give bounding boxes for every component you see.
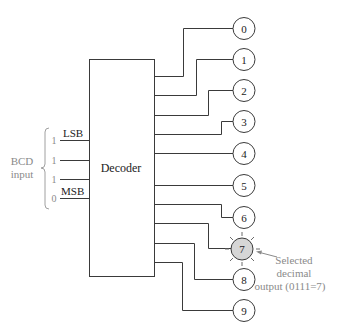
- annotation-arrow-icon: [256, 251, 277, 258]
- output-node-6: 6: [233, 207, 255, 229]
- output-node-2: 2: [233, 80, 255, 102]
- input-bit-1: 1: [52, 155, 57, 166]
- output-label: 1: [241, 54, 247, 66]
- bcd-label: BCD: [11, 155, 34, 167]
- input-bit-3: 0: [52, 193, 57, 204]
- bcd-decoder-diagram: Decoder LSB MSB 1 1 1 0 BCD input 0 1: [0, 0, 343, 334]
- output-label: 8: [241, 274, 247, 286]
- input-label: input: [11, 168, 34, 180]
- bcd-bracket: [41, 128, 49, 209]
- output-node-9: 9: [233, 300, 255, 322]
- input-bit-2: 1: [52, 174, 57, 185]
- output-wire-9: [155, 263, 234, 311]
- output-node-1: 1: [233, 49, 255, 71]
- output-wire-2: [155, 91, 234, 116]
- output-wire-6: [155, 205, 234, 218]
- lsb-label: LSB: [63, 127, 83, 139]
- output-wire-7: [155, 224, 232, 249]
- decoder-label: Decoder: [101, 161, 142, 175]
- annotation-line-1: Selected: [275, 254, 313, 266]
- output-label: 6: [241, 212, 247, 224]
- output-node-5: 5: [233, 175, 255, 197]
- annotation-line-3: output (0111=7): [254, 280, 325, 293]
- output-label: 5: [241, 180, 247, 192]
- output-label: 4: [241, 148, 247, 160]
- output-node-0: 0: [233, 18, 255, 40]
- output-wire-3: [155, 122, 234, 135]
- output-label: 0: [241, 23, 247, 35]
- output-label: 7: [239, 243, 245, 255]
- input-bit-0: 1: [52, 135, 57, 146]
- msb-label: MSB: [61, 185, 84, 197]
- output-wire-0: [155, 29, 234, 77]
- output-label: 2: [241, 85, 247, 97]
- output-label: 9: [241, 305, 247, 317]
- output-node-4: 4: [233, 143, 255, 165]
- output-node-8: 8: [233, 269, 255, 291]
- output-wires: [155, 29, 234, 311]
- output-label: 3: [241, 116, 247, 128]
- output-node-3: 3: [233, 111, 255, 133]
- annotation-line-2: decimal: [277, 267, 312, 279]
